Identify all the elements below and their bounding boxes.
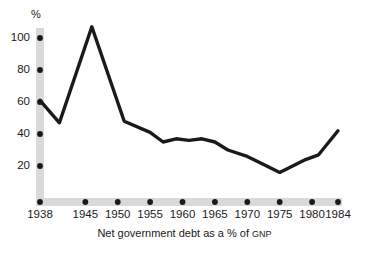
x-tick-label: 1955 xyxy=(133,209,167,221)
x-tick-label: 1938 xyxy=(23,209,57,221)
x-tick-dot xyxy=(180,199,186,205)
x-tick-label: 1970 xyxy=(230,209,264,221)
y-tick-label: 80 xyxy=(2,64,30,76)
x-tick-dot xyxy=(37,199,43,205)
x-tick-dot xyxy=(335,199,341,205)
x-tick-label: 1950 xyxy=(101,209,135,221)
x-tick-dot xyxy=(309,199,315,205)
y-tick-label: 100 xyxy=(2,32,30,44)
x-tick-dot xyxy=(244,199,250,205)
y-tick-label: 40 xyxy=(2,128,30,140)
y-tick-label: 20 xyxy=(2,160,30,172)
y-tick-dot xyxy=(37,131,43,137)
x-tick-dot xyxy=(82,199,88,205)
x-tick-label: 1984 xyxy=(321,209,355,221)
x-tick-label: 1960 xyxy=(166,209,200,221)
x-tick-dot xyxy=(212,199,218,205)
x-axis-band xyxy=(36,198,342,206)
y-tick-dot xyxy=(37,67,43,73)
data-line-series xyxy=(40,27,338,173)
y-tick-dot xyxy=(37,163,43,169)
x-tick-label: 1965 xyxy=(198,209,232,221)
x-tick-dot xyxy=(115,199,121,205)
chart-container: % 10080604020 19381945195019551960196519… xyxy=(0,0,369,255)
y-tick-label: 60 xyxy=(2,96,30,108)
x-tick-label: 1945 xyxy=(68,209,102,221)
y-axis-band xyxy=(36,28,44,206)
caption-main-text: Net government debt as a % of xyxy=(97,227,252,239)
y-tick-dot xyxy=(37,35,43,41)
chart-caption: Net government debt as a % of GNP xyxy=(0,227,369,239)
caption-smallcaps-text: GNP xyxy=(252,229,272,239)
x-tick-dot xyxy=(277,199,283,205)
x-tick-label: 1975 xyxy=(263,209,297,221)
x-tick-dot xyxy=(147,199,153,205)
